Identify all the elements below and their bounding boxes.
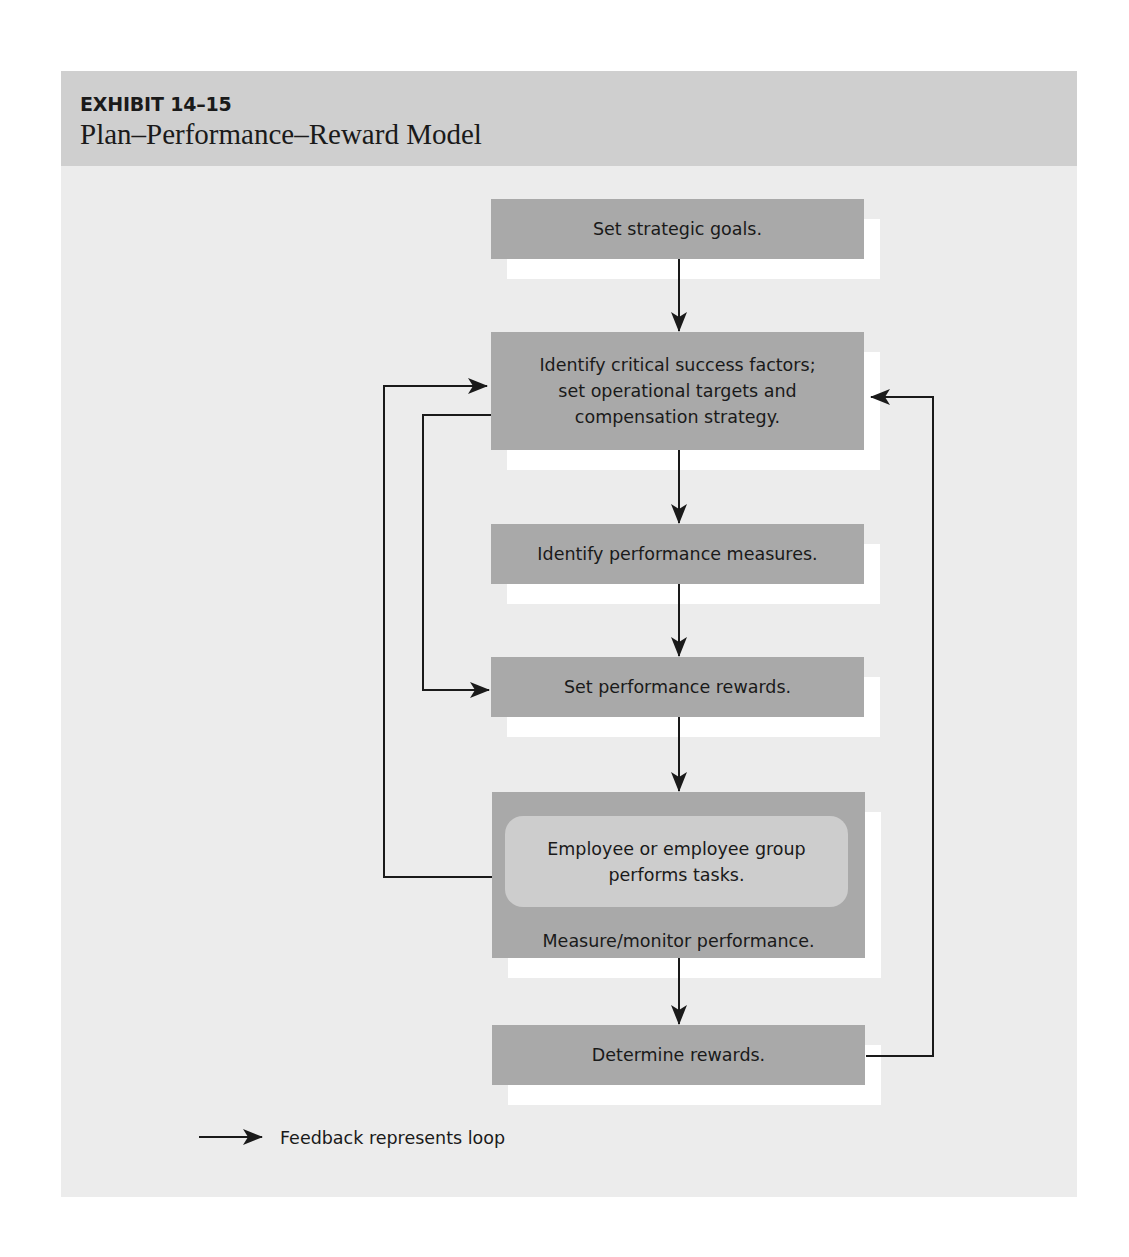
feedback-arrow-csf-to-rewards (423, 415, 491, 690)
feedback-arrow-monitor-to-csf (384, 386, 492, 877)
legend-text: Feedback represents loop (280, 1128, 505, 1148)
connector-lines (0, 0, 1129, 1257)
legend: Feedback represents loop (272, 1124, 505, 1152)
feedback-arrow-determine-to-csf (866, 397, 933, 1056)
